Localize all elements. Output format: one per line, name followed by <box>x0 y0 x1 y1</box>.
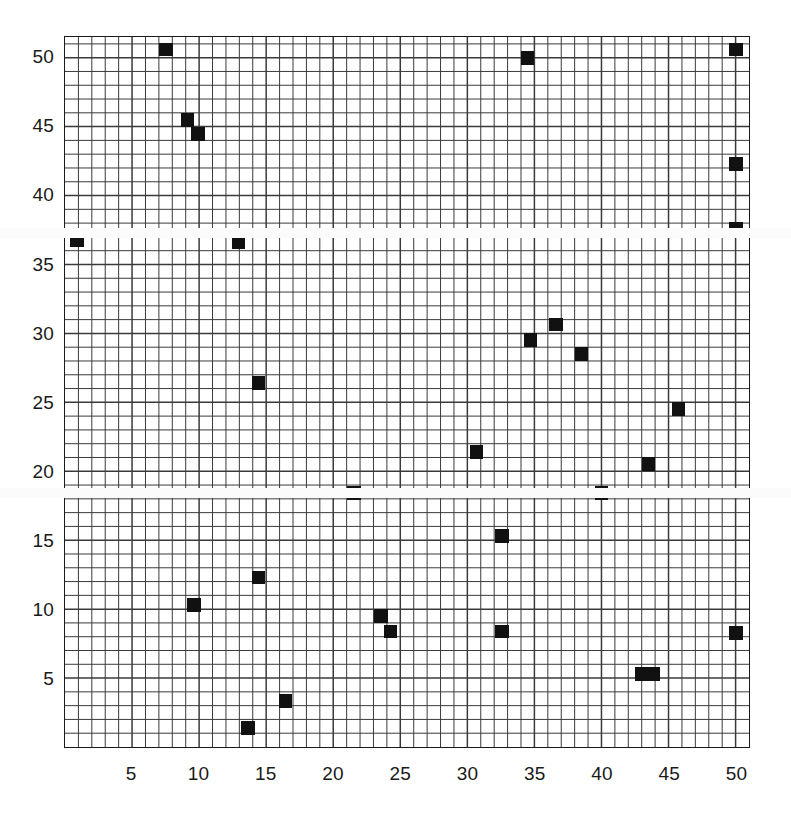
x-tick-label: 25 <box>389 764 411 783</box>
scatter-plot-figure: 5101520253035404550 5101520253035404550 <box>0 0 791 814</box>
x-tick-label: 5 <box>126 764 137 783</box>
x-tick-label: 45 <box>659 764 681 783</box>
x-tick-label: 15 <box>255 764 277 783</box>
x-tick-label: 10 <box>188 764 210 783</box>
x-tick-label: 40 <box>591 764 613 783</box>
x-tick-label: 35 <box>524 764 546 783</box>
x-axis-tick-labels: 5101520253035404550 <box>0 0 791 814</box>
x-tick-label: 50 <box>726 764 748 783</box>
x-tick-label: 30 <box>457 764 479 783</box>
x-tick-label: 20 <box>322 764 344 783</box>
